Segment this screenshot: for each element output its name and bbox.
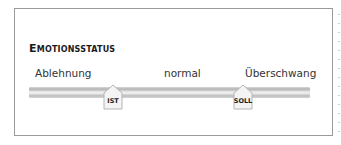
- emotion-scale-bar: [29, 87, 310, 98]
- scale-label-left: Ablehnung: [35, 67, 92, 79]
- panel-title: Emotionsstatus: [29, 42, 115, 55]
- scale-label-middle: normal: [164, 67, 201, 79]
- emotion-status-panel: Emotionsstatus Ablehnung normal Überschw…: [14, 8, 333, 136]
- ist-marker-label: IST: [103, 97, 123, 105]
- soll-marker[interactable]: SOLL: [233, 84, 253, 110]
- decorative-dotted-edge: [338, 10, 340, 140]
- soll-marker-label: SOLL: [233, 97, 253, 105]
- ist-marker[interactable]: IST: [103, 84, 123, 110]
- scale-label-right: Überschwang: [245, 67, 316, 79]
